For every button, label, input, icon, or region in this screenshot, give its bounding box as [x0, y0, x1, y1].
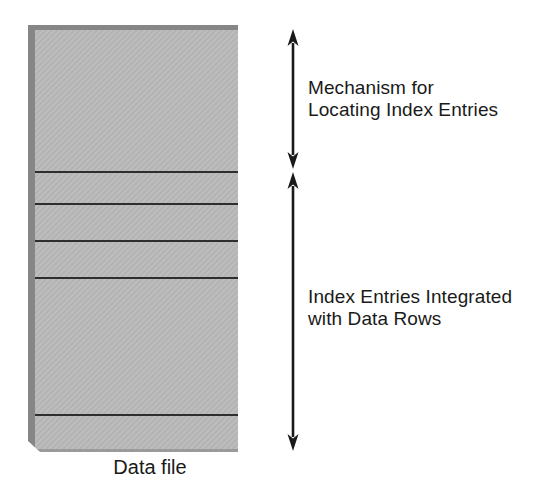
annotation-index-entries-label: Index Entries Integrated with Data Rows: [308, 286, 512, 330]
double-headed-arrow-icon-top: [288, 29, 299, 169]
segment-divider-line: [35, 171, 238, 173]
segment-divider-line: [35, 277, 238, 279]
data-file-box: [28, 25, 238, 452]
annotation-mechanism-label: Mechanism for Locating Index Entries: [308, 77, 498, 121]
segment-divider-line: [35, 240, 238, 242]
double-headed-arrow-icon-bottom: [288, 172, 299, 451]
segment-divider-line: [35, 414, 238, 416]
data-file-caption: Data file: [30, 456, 270, 479]
figure-canvas: Mechanism for Locating Index Entries Ind…: [0, 0, 553, 503]
segment-divider-line: [35, 203, 238, 205]
